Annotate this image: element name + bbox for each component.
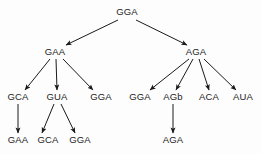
- tree-edge: [150, 59, 189, 90]
- tree-node-label: GGA: [116, 7, 138, 17]
- tree-edge: [136, 20, 187, 45]
- tree-node-label: GAA: [45, 47, 66, 57]
- tree-edge: [42, 104, 54, 133]
- tree-edge: [61, 104, 75, 133]
- tree-edge: [204, 59, 236, 90]
- tree-node-label: AUA: [233, 92, 253, 102]
- tree-node-label: AGA: [163, 135, 184, 145]
- tree-node-label: ACA: [199, 92, 219, 102]
- tree-node-label: GUA: [46, 92, 67, 102]
- tree-edge: [176, 59, 193, 90]
- tree-node-label: AGb: [163, 92, 183, 102]
- tree-edge: [66, 20, 118, 45]
- tree-node-label: GGA: [69, 135, 91, 145]
- tree-node-label: GAA: [8, 135, 29, 145]
- tree-node-label: GGA: [90, 92, 112, 102]
- edge-layer: [0, 0, 262, 154]
- tree-edge: [56, 59, 57, 90]
- tree-node-label: GGA: [129, 92, 151, 102]
- tree-node-label: AGA: [186, 47, 207, 57]
- tree-edge: [199, 59, 209, 90]
- tree-diagram: GGAGAAAGAGCAGUAGGAGGAAGbACAAUAGAAGCAGGAA…: [0, 0, 262, 154]
- tree-edge: [63, 59, 93, 90]
- edges-group: [18, 20, 236, 133]
- tree-node-label: GCA: [7, 92, 28, 102]
- tree-edge: [25, 59, 50, 90]
- tree-node-label: GCA: [37, 135, 58, 145]
